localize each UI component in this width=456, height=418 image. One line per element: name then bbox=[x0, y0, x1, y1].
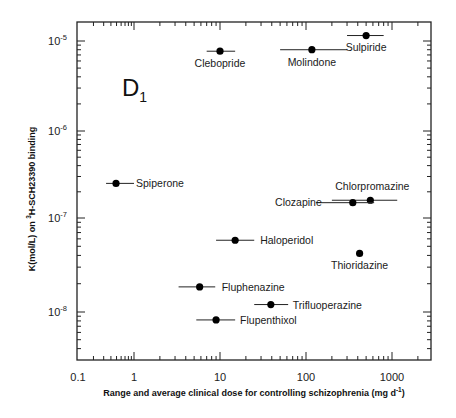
x-tick-label: 1 bbox=[131, 371, 137, 383]
marker-dot bbox=[196, 283, 203, 290]
data-point: Fluphenazine bbox=[179, 281, 285, 293]
y-tick-label: 10-8 bbox=[48, 304, 67, 318]
point-label: Fluphenazine bbox=[222, 281, 285, 293]
marker-dot bbox=[363, 32, 370, 39]
point-label: Thioridazine bbox=[331, 259, 388, 271]
marker-dot bbox=[308, 46, 315, 53]
data-point: Haloperidol bbox=[216, 234, 313, 246]
marker-dot bbox=[267, 301, 274, 308]
point-label: Trifluoperazine bbox=[293, 299, 362, 311]
marker-dot bbox=[112, 180, 119, 187]
x-tick-label: 10 bbox=[214, 371, 226, 383]
y-tick-label: 10-7 bbox=[48, 210, 67, 224]
data-point: Thioridazine bbox=[331, 250, 388, 272]
point-label: Clozapine bbox=[275, 196, 322, 208]
point-label: Clebopride bbox=[195, 57, 246, 69]
data-point: Flupenthixol bbox=[196, 314, 296, 326]
point-label: Haloperidol bbox=[260, 234, 313, 246]
data-point: Chlorpromazine bbox=[332, 180, 410, 204]
data-point: Clozapine bbox=[275, 196, 374, 208]
y-axis-title: K(mol/L) on 3H-SCH23390 binding bbox=[25, 127, 37, 272]
y-tick-label: 10-5 bbox=[48, 33, 67, 47]
marker-dot bbox=[356, 250, 363, 257]
data-point: Molindone bbox=[280, 46, 347, 68]
x-tick-label: 100 bbox=[297, 371, 315, 383]
data-point: Sulpiride bbox=[346, 32, 387, 53]
point-label: Chlorpromazine bbox=[335, 180, 409, 192]
y-tick-label: 10-6 bbox=[48, 123, 67, 137]
data-point: Clebopride bbox=[195, 48, 246, 70]
x-tick-label: 1000 bbox=[380, 371, 404, 383]
point-label: Sulpiride bbox=[346, 41, 387, 53]
data-points: CleboprideMolindoneSulpirideSpiperoneChl… bbox=[106, 32, 409, 326]
panel-label: D1 bbox=[122, 74, 147, 105]
marker-dot bbox=[216, 48, 223, 55]
marker-dot bbox=[212, 316, 219, 323]
marker-dot bbox=[232, 237, 239, 244]
data-point: Trifluoperazine bbox=[254, 299, 362, 311]
point-label: Spiperone bbox=[136, 177, 184, 189]
point-label: Molindone bbox=[288, 56, 337, 68]
x-axis-title: Range and average clinical dose for cont… bbox=[103, 386, 404, 398]
axis-tick-labels: 0.1110100100010-510-610-710-8 bbox=[48, 33, 404, 383]
marker-dot bbox=[349, 199, 356, 206]
chart-canvas: 0.1110100100010-510-610-710-8 Clebopride… bbox=[0, 0, 456, 418]
x-tick-label: 0.1 bbox=[70, 371, 85, 383]
data-point: Spiperone bbox=[106, 177, 184, 189]
point-label: Flupenthixol bbox=[240, 314, 297, 326]
